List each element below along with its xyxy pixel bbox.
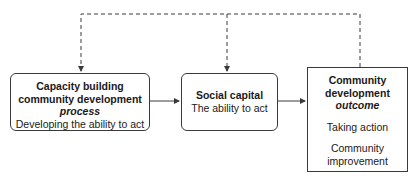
node-item: Taking action	[308, 121, 407, 134]
capacity-building-node: Capacity building community development …	[10, 73, 150, 131]
node-title-line: community development	[11, 93, 149, 106]
node-description: Developing the ability to act	[11, 118, 149, 131]
node-title-line: Capacity building	[11, 80, 149, 93]
node-item: improvement	[308, 155, 407, 168]
node-item: Community	[308, 142, 407, 155]
node-emphasis: outcome	[308, 99, 407, 112]
node-description: The ability to act	[182, 102, 277, 115]
social-capital-node: Social capital The ability to act	[181, 73, 278, 131]
node-title: Social capital	[182, 89, 277, 102]
community-development-outcome-node: Community development outcome Taking act…	[307, 67, 408, 172]
node-title-line: development	[308, 87, 407, 100]
feedback-dashed-loop	[81, 14, 360, 71]
node-title-line: Community	[308, 74, 407, 87]
node-emphasis: process	[11, 105, 149, 118]
